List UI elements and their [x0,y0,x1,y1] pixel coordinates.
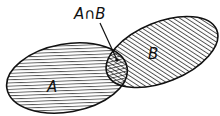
venn-diagram: A∩B A B [0,0,220,116]
set-b-label: B [148,45,158,63]
intersection-label: A∩B [73,5,106,23]
set-a-label: A [46,78,57,96]
pointer-dot [115,58,119,62]
